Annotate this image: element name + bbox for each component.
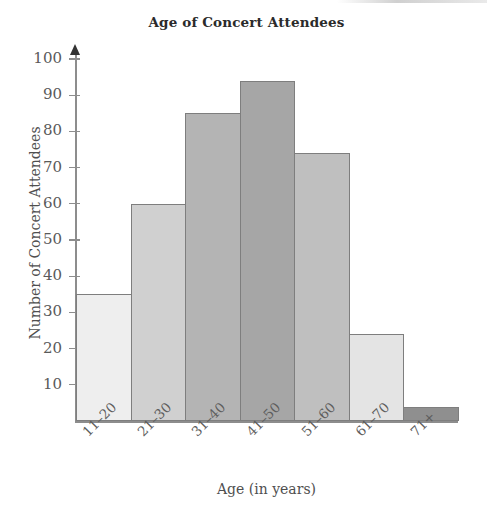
y-axis-tick	[69, 95, 80, 96]
y-axis-tick	[69, 58, 80, 59]
bar-41-50	[240, 81, 296, 421]
chart-title: Age of Concert Attendees	[0, 14, 493, 30]
x-axis-title: Age (in years)	[75, 481, 458, 497]
y-axis-tick	[69, 131, 80, 132]
scan-artifact	[337, 0, 487, 3]
y-axis-tick	[69, 276, 80, 277]
y-axis-tick	[69, 203, 80, 204]
y-axis-tick	[69, 167, 80, 168]
y-axis-tick-label: 90	[32, 87, 62, 102]
y-axis-tick	[69, 239, 80, 240]
y-axis-arrow-icon	[70, 44, 80, 55]
y-axis-tick-label: 100	[26, 51, 62, 66]
bar-31-40	[185, 113, 241, 421]
y-axis-title: Number of Concert Attendees	[27, 103, 43, 363]
bar-21-30	[131, 204, 187, 421]
bar-51-60	[294, 153, 350, 421]
y-axis-tick-label: 10	[32, 377, 62, 392]
bar-chart-figure: Age of Concert Attendees 102030405060708…	[0, 0, 493, 509]
